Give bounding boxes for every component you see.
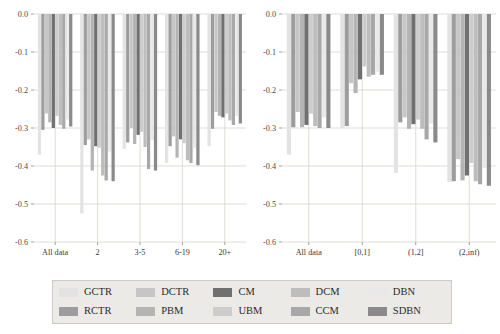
bar-sdbn-0 xyxy=(69,14,72,126)
bar-dctr-3 xyxy=(456,14,460,159)
plot-area-left: 0.0-0.1-0.2-0.3-0.4-0.5-0.6All data23-56… xyxy=(0,0,250,278)
bar-dctr-1 xyxy=(87,14,90,139)
legend-label-ubm: UBM xyxy=(238,306,262,317)
bar-ccm-1 xyxy=(105,14,108,180)
bar-sdbn-0 xyxy=(326,14,330,128)
figure-root: 0.0-0.1-0.2-0.3-0.4-0.5-0.6All data23-56… xyxy=(0,0,500,334)
ytick-label: -0.2 xyxy=(263,86,276,95)
legend-swatch-ccm xyxy=(291,307,310,316)
legend-item-cm[interactable]: CM xyxy=(213,287,290,298)
bar-pbm-3 xyxy=(460,14,464,180)
bar-rctr-2 xyxy=(126,14,129,142)
bar-dctr-3 xyxy=(172,14,175,136)
bar-sdbn-2 xyxy=(154,14,157,171)
bar-pbm-3 xyxy=(175,14,178,158)
chart-panel-left: 0.0-0.1-0.2-0.3-0.4-0.5-0.6All data23-56… xyxy=(0,0,250,278)
bar-dbn-0 xyxy=(322,14,326,117)
bar-ccm-2 xyxy=(147,14,150,169)
legend-label-dbn: DBN xyxy=(393,287,415,298)
bar-gctr-3 xyxy=(447,14,451,182)
xtick-label-0: All data xyxy=(42,248,69,257)
bar-ccm-4 xyxy=(232,14,235,125)
bar-cm-1 xyxy=(358,14,362,79)
legend-label-rctr: RCTR xyxy=(84,306,111,317)
chart-legend: GCTRDCTRCMDCMDBNRCTRPBMUBMCCMSDBN xyxy=(52,280,452,324)
xtick-label-4: 20+ xyxy=(218,248,231,257)
ytick-label: -0.6 xyxy=(263,238,276,247)
legend-swatch-ubm xyxy=(213,307,232,316)
bar-ccm-3 xyxy=(189,14,192,163)
bar-dcm-3 xyxy=(186,14,189,160)
ytick-label: -0.6 xyxy=(15,238,28,247)
legend-swatch-dctr xyxy=(136,288,155,297)
bar-dcm-1 xyxy=(367,14,371,77)
legend-item-dcm[interactable]: DCM xyxy=(291,287,368,298)
bar-dctr-0 xyxy=(296,14,300,112)
bar-dctr-2 xyxy=(403,14,407,117)
ytick-label: -0.5 xyxy=(15,200,28,209)
legend-swatch-sdbn xyxy=(368,307,387,316)
bar-pbm-2 xyxy=(407,14,411,129)
bar-gctr-3 xyxy=(165,14,168,163)
legend-label-sdbn: SDBN xyxy=(393,306,421,317)
bar-dbn-2 xyxy=(429,14,433,123)
ytick-label: 0.0 xyxy=(266,10,276,19)
bar-dctr-0 xyxy=(45,14,48,114)
ytick-label: -0.5 xyxy=(263,200,276,209)
ytick-label: -0.4 xyxy=(15,162,28,171)
bar-cm-0 xyxy=(52,14,55,128)
ytick-label: -0.3 xyxy=(263,124,276,133)
legend-item-gctr[interactable]: GCTR xyxy=(59,287,136,298)
legend-item-pbm[interactable]: PBM xyxy=(136,306,213,317)
legend-label-cm: CM xyxy=(238,287,254,298)
bar-cm-2 xyxy=(411,14,415,124)
bar-dcm-2 xyxy=(420,14,424,129)
legend-swatch-rctr xyxy=(59,307,78,316)
xtick-label-3: (2,inf) xyxy=(459,248,480,257)
xtick-label-0: All data xyxy=(296,248,323,257)
bar-rctr-2 xyxy=(398,14,402,122)
bar-pbm-1 xyxy=(91,14,94,171)
legend-item-sdbn[interactable]: SDBN xyxy=(368,306,445,317)
xtick-label-1: [0,1] xyxy=(354,248,370,257)
legend-item-dbn[interactable]: DBN xyxy=(368,287,445,298)
bar-cm-3 xyxy=(179,14,182,139)
bar-gctr-0 xyxy=(287,14,291,155)
bar-gctr-1 xyxy=(340,14,344,128)
legend-label-dctr: DCTR xyxy=(161,287,189,298)
ytick-label: -0.1 xyxy=(263,48,276,57)
bar-ubm-4 xyxy=(225,14,228,114)
bar-dbn-3 xyxy=(193,14,196,148)
bar-dcm-1 xyxy=(101,14,104,176)
bar-ubm-2 xyxy=(140,14,143,132)
bar-sdbn-4 xyxy=(239,14,242,123)
chart-panels: 0.0-0.1-0.2-0.3-0.4-0.5-0.6All data23-56… xyxy=(0,0,500,278)
ytick-label: -0.4 xyxy=(263,162,276,171)
legend-label-pbm: PBM xyxy=(161,306,183,317)
bar-gctr-0 xyxy=(38,14,41,155)
bar-rctr-0 xyxy=(291,14,295,127)
bar-cm-2 xyxy=(137,14,140,135)
bar-ubm-3 xyxy=(182,14,185,143)
bar-cm-3 xyxy=(465,14,469,176)
bar-dbn-4 xyxy=(235,14,238,116)
bar-gctr-2 xyxy=(123,14,126,149)
ytick-label: 0.0 xyxy=(18,10,28,19)
xtick-label-2: (1,2] xyxy=(408,248,424,257)
bar-rctr-3 xyxy=(452,14,456,181)
bar-cm-1 xyxy=(94,14,97,146)
bar-dbn-3 xyxy=(482,14,486,168)
bar-rctr-0 xyxy=(41,14,44,130)
legend-item-ccm[interactable]: CCM xyxy=(291,306,368,317)
legend-item-rctr[interactable]: RCTR xyxy=(59,306,136,317)
xtick-label-2: 3-5 xyxy=(135,248,146,257)
legend-swatch-dbn xyxy=(368,288,387,297)
legend-item-dctr[interactable]: DCTR xyxy=(136,287,213,298)
legend-item-ubm[interactable]: UBM xyxy=(213,306,290,317)
bar-sdbn-3 xyxy=(196,14,199,165)
bar-ubm-0 xyxy=(55,14,58,116)
legend-label-dcm: DCM xyxy=(316,287,340,298)
legend-swatch-cm xyxy=(213,288,232,297)
chart-panel-right: 0.0-0.1-0.2-0.3-0.4-0.5-0.6All data[0,1]… xyxy=(248,0,500,278)
bar-ccm-0 xyxy=(318,14,322,128)
